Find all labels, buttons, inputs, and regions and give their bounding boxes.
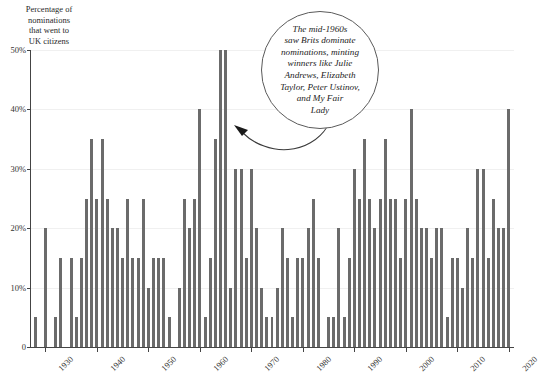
bar xyxy=(507,109,510,347)
bar xyxy=(80,258,83,347)
bar xyxy=(224,50,227,347)
bar xyxy=(312,199,315,348)
x-tick-mark xyxy=(509,348,510,352)
x-tick-label: 1980 xyxy=(314,354,333,373)
x-tick-label: 1960 xyxy=(211,354,230,373)
y-tick-label: 30% xyxy=(10,164,26,174)
x-tick-mark xyxy=(148,348,149,352)
bar xyxy=(209,258,212,347)
x-tick-mark xyxy=(406,348,407,352)
bar xyxy=(451,258,454,347)
bar xyxy=(492,199,495,348)
bar xyxy=(456,258,459,347)
x-tick-label: 1990 xyxy=(365,354,384,373)
bar xyxy=(384,139,387,347)
bar xyxy=(389,199,392,348)
bar xyxy=(404,199,407,348)
bar xyxy=(204,317,207,347)
x-axis-labels: 1930194019501960197019801990200020102020 xyxy=(30,349,514,384)
bar xyxy=(368,199,371,348)
y-tick-mark xyxy=(27,347,31,348)
bar xyxy=(126,199,129,348)
bar xyxy=(461,288,464,347)
bar xyxy=(70,258,73,347)
bar xyxy=(34,317,37,347)
bar xyxy=(106,199,109,348)
bar xyxy=(152,258,155,347)
x-tick-mark xyxy=(354,348,355,352)
bar xyxy=(446,317,449,347)
x-tick-mark xyxy=(200,348,201,352)
bar xyxy=(482,169,485,347)
bar xyxy=(90,139,93,347)
bar xyxy=(471,258,474,347)
y-tick-mark xyxy=(27,109,31,110)
bar xyxy=(301,258,304,347)
bar xyxy=(466,228,469,347)
bar xyxy=(234,169,237,347)
x-tick-label: 1940 xyxy=(108,354,127,373)
x-tick-label: 2010 xyxy=(468,354,487,373)
bar xyxy=(85,199,88,348)
x-tick-label: 2020 xyxy=(520,354,539,373)
bar xyxy=(281,228,284,347)
y-tick-label: 10% xyxy=(10,283,26,293)
bar xyxy=(476,169,479,347)
y-tick-mark xyxy=(27,50,31,51)
bar xyxy=(54,317,57,347)
bar xyxy=(276,288,279,347)
bar xyxy=(394,199,397,348)
y-tick-mark xyxy=(27,169,31,170)
bar xyxy=(95,199,98,348)
bar xyxy=(101,139,104,347)
bar xyxy=(137,258,140,347)
bar xyxy=(178,288,181,347)
x-tick-label: 1970 xyxy=(262,354,281,373)
x-axis-line xyxy=(30,347,514,348)
bar xyxy=(435,228,438,347)
bar xyxy=(332,317,335,347)
x-tick-mark xyxy=(457,348,458,352)
bar xyxy=(229,288,232,347)
bar xyxy=(121,258,124,347)
y-tick-label: 50% xyxy=(10,45,26,55)
bar xyxy=(131,258,134,347)
bar xyxy=(343,317,346,347)
bar xyxy=(75,317,78,347)
annotation-bubble: The mid-1960s saw Brits dominate nominat… xyxy=(261,11,379,129)
bar xyxy=(116,228,119,347)
bar xyxy=(255,228,258,347)
bar xyxy=(296,258,299,347)
bar xyxy=(307,228,310,347)
bar xyxy=(497,228,500,347)
bar xyxy=(373,228,376,347)
x-tick-mark xyxy=(97,348,98,352)
bar xyxy=(502,228,505,347)
bar xyxy=(379,199,382,348)
bar xyxy=(198,109,201,347)
bar xyxy=(245,258,248,347)
x-tick-label: 2000 xyxy=(417,354,436,373)
y-tick-label: 40% xyxy=(10,104,26,114)
y-tick-mark xyxy=(27,228,31,229)
bar xyxy=(358,199,361,348)
x-tick-mark xyxy=(303,348,304,352)
x-tick-mark xyxy=(45,348,46,352)
bar xyxy=(162,258,165,347)
bar xyxy=(353,169,356,347)
bar xyxy=(260,288,263,347)
bar xyxy=(44,228,47,347)
bar xyxy=(399,258,402,347)
bar xyxy=(147,288,150,347)
annotation-text: The mid-1960s saw Brits dominate nominat… xyxy=(271,24,369,117)
bar xyxy=(425,228,428,347)
bar xyxy=(142,199,145,348)
bar xyxy=(111,228,114,347)
y-tick-label: 0 xyxy=(22,342,26,352)
x-tick-label: 1950 xyxy=(159,354,178,373)
bar xyxy=(317,258,320,347)
bar xyxy=(240,169,243,347)
bar xyxy=(59,258,62,347)
bar xyxy=(286,258,289,347)
